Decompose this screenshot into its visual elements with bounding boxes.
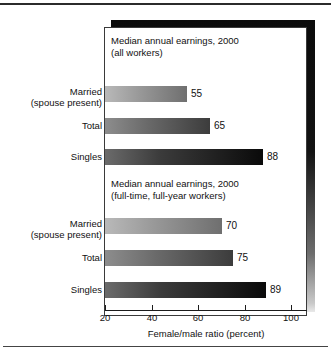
x-tick-100 bbox=[291, 305, 292, 310]
group2-title: Median annual earnings, 2000 (full-time,… bbox=[111, 178, 239, 201]
bar-value-group2-singles: 89 bbox=[270, 282, 281, 298]
bar-group1-total bbox=[105, 118, 210, 134]
x-tick-40 bbox=[152, 305, 153, 310]
x-tick-label-100: 100 bbox=[276, 312, 306, 323]
category-label-total-1: Total bbox=[2, 120, 102, 131]
x-axis-title: Female/male ratio (percent) bbox=[104, 328, 308, 339]
bar-group2-singles bbox=[105, 282, 266, 298]
bottom-rule bbox=[3, 346, 328, 347]
x-tick-60 bbox=[198, 305, 199, 310]
x-tick-label-60: 60 bbox=[183, 312, 213, 323]
bar-value-group2-total: 75 bbox=[237, 250, 248, 266]
top-rule bbox=[0, 3, 331, 5]
bar-group2-married bbox=[105, 218, 222, 234]
bar-chart-figure: Median annual earnings, 2000 (all worker… bbox=[0, 10, 331, 342]
bar-group2-total bbox=[105, 250, 233, 266]
category-label-singles-2: Singles bbox=[2, 284, 102, 295]
x-tick-80 bbox=[245, 305, 246, 310]
category-label-married-1: Married (spouse present) bbox=[2, 86, 102, 108]
bar-group1-married bbox=[105, 86, 187, 102]
group1-title: Median annual earnings, 2000 (all worker… bbox=[111, 35, 239, 58]
bar-value-group2-married: 70 bbox=[226, 218, 237, 234]
bar-group1-singles bbox=[105, 149, 263, 165]
x-axis-line bbox=[105, 310, 307, 311]
category-label-married-2: Married (spouse present) bbox=[2, 218, 102, 240]
plot-panel bbox=[104, 27, 307, 316]
category-label-total-2: Total bbox=[2, 252, 102, 263]
bar-value-group1-married: 55 bbox=[191, 86, 202, 102]
bar-value-group1-singles: 88 bbox=[267, 149, 278, 165]
x-tick-label-20: 20 bbox=[90, 312, 120, 323]
x-tick-20 bbox=[105, 305, 106, 310]
x-tick-label-40: 40 bbox=[137, 312, 167, 323]
category-label-singles-1: Singles bbox=[2, 151, 102, 162]
bar-value-group1-total: 65 bbox=[214, 118, 225, 134]
x-tick-label-80: 80 bbox=[230, 312, 260, 323]
